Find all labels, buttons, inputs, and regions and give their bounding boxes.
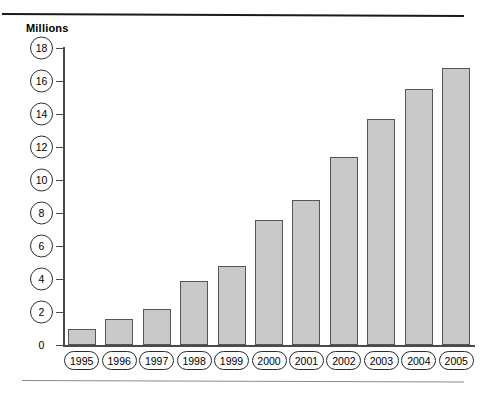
y-axis-tick-label: 2: [30, 301, 53, 324]
y-axis-tick-label: 12: [30, 136, 53, 159]
x-axis-tick-label: 1999: [214, 351, 249, 370]
y-axis-tick-label: 10: [30, 169, 53, 192]
x-axis-tick-label: 2003: [364, 351, 399, 370]
y-axis-tick-labels: 024681012141618: [27, 0, 53, 397]
y-axis-tick-mark: [56, 312, 63, 313]
x-axis-tick-label: 1996: [102, 351, 137, 370]
bar: [405, 89, 433, 345]
x-axis-tick-label: 1995: [64, 351, 99, 370]
y-tick-value-circled: 16: [30, 70, 53, 93]
y-axis-tick-mark: [56, 114, 63, 115]
y-axis-tick-label: 14: [30, 103, 53, 126]
bar: [218, 266, 246, 345]
y-tick-value-circled: 18: [30, 37, 53, 60]
y-tick-value-circled: 14: [30, 103, 53, 126]
bar: [68, 329, 96, 346]
y-axis-tick-label: 0: [30, 334, 53, 357]
y-tick-value-circled: 2: [30, 301, 53, 324]
bar: [143, 309, 171, 345]
y-axis-tick-mark: [56, 147, 63, 148]
y-axis-tick-label: 18: [30, 37, 53, 60]
y-tick-value-circled: 8: [30, 202, 53, 225]
y-axis-tick-label: 6: [30, 235, 53, 258]
y-axis-tick-label: 16: [30, 70, 53, 93]
y-axis-tick-mark: [56, 180, 63, 181]
bottom-divider-rule: [22, 380, 464, 382]
bar: [442, 68, 470, 345]
y-axis-tick-label: 4: [30, 268, 53, 291]
bar: [105, 319, 133, 345]
x-axis-tick-label: 2000: [252, 351, 287, 370]
y-tick-value-circled: 12: [30, 136, 53, 159]
y-axis-tick-mark: [56, 81, 63, 82]
bar: [255, 220, 283, 345]
y-tick-value-circled: 6: [30, 235, 53, 258]
y-axis-tick-mark: [56, 279, 63, 280]
y-axis-tick-label: 8: [30, 202, 53, 225]
y-axis-tick-mark: [56, 213, 63, 214]
y-tick-value: 0: [30, 334, 53, 357]
y-tick-value-circled: 4: [30, 268, 53, 291]
x-axis-tick-label: 2001: [289, 351, 324, 370]
top-divider-rule: [2, 13, 464, 17]
y-axis-tick-mark: [56, 246, 63, 247]
x-axis-tick-label: 1998: [177, 351, 212, 370]
bar: [180, 281, 208, 345]
x-axis-tick-label: 1997: [139, 351, 174, 370]
y-axis-tick-mark: [56, 48, 63, 49]
x-axis-tick-label: 2002: [326, 351, 361, 370]
bar-chart-figure: Millions 024681012141618 199519961997199…: [0, 0, 486, 397]
bars-container: [63, 48, 475, 345]
bar: [292, 200, 320, 345]
y-axis-tick-mark: [56, 345, 63, 346]
bar: [367, 119, 395, 345]
bar: [330, 157, 358, 345]
x-axis-line: [63, 345, 475, 347]
x-axis-tick-labels: 1995199619971998199920002001200220032004…: [63, 351, 475, 375]
y-tick-value-circled: 10: [30, 169, 53, 192]
x-axis-tick-label: 2004: [401, 351, 436, 370]
x-axis-tick-label: 2005: [439, 351, 474, 370]
